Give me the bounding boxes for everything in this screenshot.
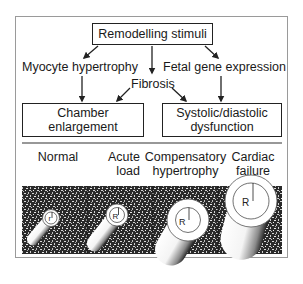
radius-label-R: R xyxy=(113,212,119,221)
radius-label-R: R xyxy=(242,197,249,208)
chamber-illustration: r R R R xyxy=(0,0,303,284)
radius-label-R: R xyxy=(179,217,186,227)
